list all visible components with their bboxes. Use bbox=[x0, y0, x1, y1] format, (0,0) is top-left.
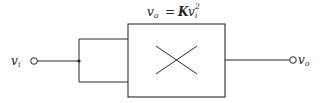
output-label: v o bbox=[298, 53, 310, 68]
title-equals: = bbox=[165, 5, 175, 19]
output-label-var: v bbox=[298, 53, 305, 67]
squarer-diagram: v o = K v 2 i v i v o bbox=[0, 0, 324, 103]
output-label-sub: o bbox=[305, 59, 310, 68]
title-equation: v o = K v 2 i bbox=[147, 2, 200, 20]
input-label-sub: i bbox=[18, 60, 21, 69]
title-lhs-var: v bbox=[147, 5, 154, 19]
title-rhs-exp: 2 bbox=[194, 2, 200, 11]
title-rhs-var: v bbox=[188, 5, 195, 19]
title-rhs-sub: i bbox=[195, 11, 198, 20]
output-terminal-icon bbox=[290, 57, 297, 64]
title-lhs-sub: o bbox=[154, 11, 159, 20]
input-label: v i bbox=[11, 54, 21, 69]
input-terminal-icon bbox=[31, 58, 38, 65]
input-label-var: v bbox=[11, 54, 18, 68]
